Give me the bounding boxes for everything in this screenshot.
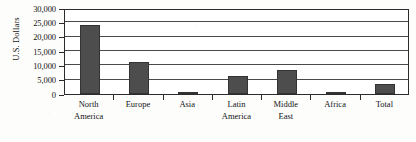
x-axis-tick-label: Africa <box>310 99 359 111</box>
plot-area <box>64 9 409 95</box>
y-axis-tick-label: 10,000 <box>33 61 56 72</box>
y-axis-tick-label: 5,000 <box>37 75 56 86</box>
x-axis-tick-label-line: Latin <box>212 99 261 111</box>
x-axis-tick-label: MiddleEast <box>261 99 310 122</box>
bar <box>375 84 395 94</box>
y-axis-tick: 25,000 <box>33 18 64 29</box>
x-axis-tick-label: LatinAmerica <box>212 99 261 122</box>
x-axis-tick-label: Asia <box>163 99 212 111</box>
bar <box>277 70 297 94</box>
y-axis-tick: 5,000 <box>37 75 64 86</box>
x-axis-tick-label-line: Total <box>360 99 409 111</box>
y-axis-tick-label: 25,000 <box>33 18 56 29</box>
bar <box>326 92 346 94</box>
bar-chart-figure: U.S. Dollars 05,00010,00015,00020,00025,… <box>0 0 416 142</box>
y-axis-tick-label: 20,000 <box>33 32 56 43</box>
bars-group <box>65 10 408 94</box>
y-axis-tick: 15,000 <box>33 47 64 58</box>
y-axis-tick: 30,000 <box>33 4 64 15</box>
y-axis-tick-label: 0 <box>52 90 56 101</box>
y-axis-tick: 0 <box>52 90 64 101</box>
y-axis-tick-label: 30,000 <box>33 4 56 15</box>
bar <box>129 62 149 94</box>
x-axis-tick-label-line: America <box>212 111 261 123</box>
x-axis-tick-label-line: Africa <box>310 99 359 111</box>
bar <box>178 92 198 94</box>
x-axis-tick-label: Total <box>360 99 409 111</box>
y-axis-tick-label: 15,000 <box>33 47 56 58</box>
x-axis-label-group: NorthAmericaEuropeAsiaLatinAmericaMiddle… <box>64 99 409 139</box>
y-axis-tick: 20,000 <box>33 32 64 43</box>
x-axis-tick-label-line: Europe <box>113 99 162 111</box>
bar <box>228 76 248 94</box>
x-axis-tick-label-line: Middle <box>261 99 310 111</box>
x-axis-tick-label-line: East <box>261 111 310 123</box>
x-axis-tick-label-line: Asia <box>163 99 212 111</box>
bar <box>80 25 100 94</box>
y-axis-tick-group: 05,00010,00015,00020,00025,00030,000 <box>0 9 64 95</box>
x-axis-tick-label-line: America <box>64 111 113 123</box>
y-axis-tick: 10,000 <box>33 61 64 72</box>
x-axis-tick-label: NorthAmerica <box>64 99 113 122</box>
x-axis-tick-label-line: North <box>64 99 113 111</box>
x-axis-tick-label: Europe <box>113 99 162 111</box>
